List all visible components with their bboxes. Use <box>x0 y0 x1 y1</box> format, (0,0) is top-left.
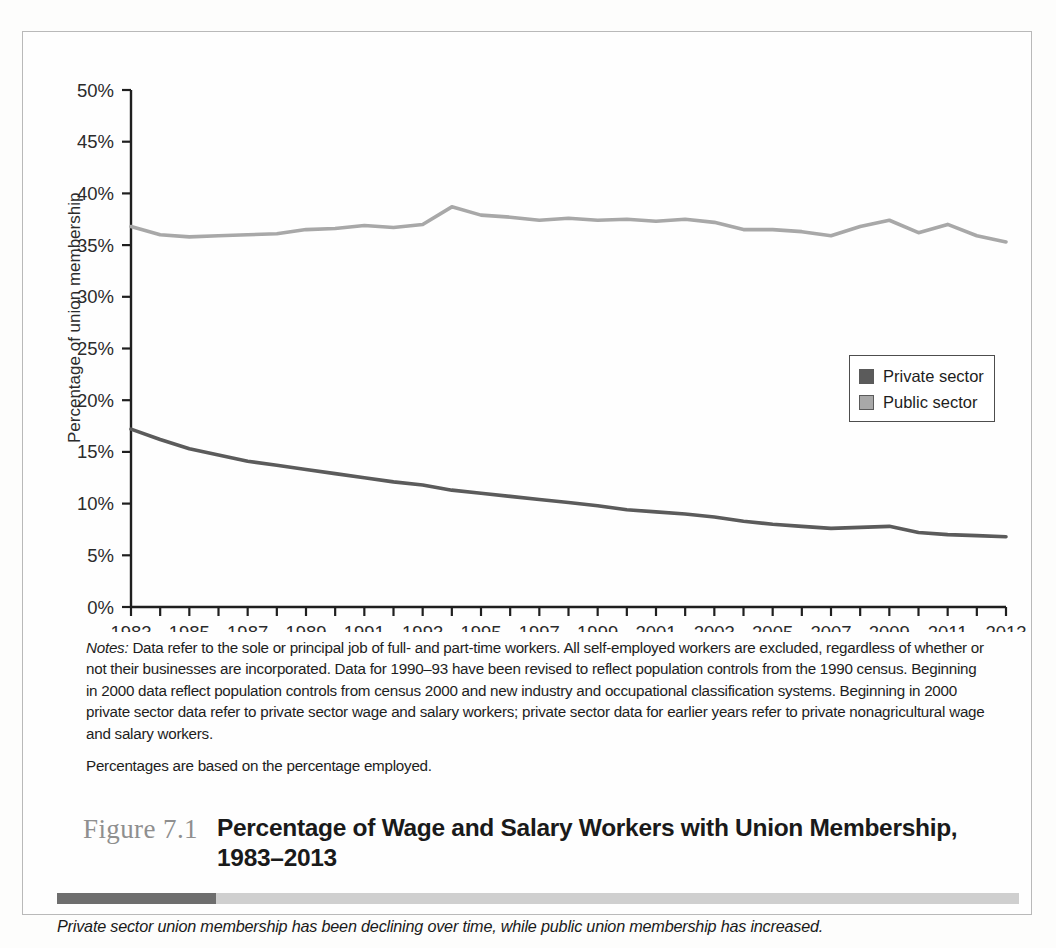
x-axis-tick-label: 2009 <box>869 622 910 632</box>
decorative-rule-bar <box>57 893 1019 904</box>
x-axis-tick-label: 2001 <box>635 622 676 632</box>
series-line-private-sector <box>131 429 1006 537</box>
rule-bar-dark-segment <box>57 893 216 904</box>
y-axis-tick-label: 15% <box>77 441 114 462</box>
notes-body-1: Data refer to the sole or principal job … <box>86 639 984 742</box>
legend-label-private-sector: Private sector <box>883 367 984 386</box>
x-axis-tick-label: 1997 <box>519 622 560 632</box>
y-axis-tick-label: 50% <box>77 80 114 101</box>
y-axis-tick-label: 10% <box>77 493 114 514</box>
y-axis-tick-label: 45% <box>77 131 114 152</box>
notes-paragraph-1: Notes: Data refer to the sole or princip… <box>86 637 991 744</box>
chart-area: Percentage of union membership 0%5%10%15… <box>23 32 1033 632</box>
figure-number: Figure 7.1 <box>83 813 198 845</box>
x-axis-tick-label: 2007 <box>810 622 851 632</box>
y-axis-tick-label: 25% <box>77 338 114 359</box>
figure-frame: Percentage of union membership 0%5%10%15… <box>22 31 1032 915</box>
rule-bar-light-segment <box>216 893 1019 904</box>
y-axis-tick-label: 35% <box>77 235 114 256</box>
line-chart-svg: 0%5%10%15%20%25%30%35%40%45%50%198319851… <box>23 32 1033 632</box>
figure-caption: Private sector union membership has been… <box>57 917 1022 936</box>
y-axis-tick-label: 0% <box>87 597 114 618</box>
notes-lead-label: Notes: <box>86 639 128 656</box>
figure-title-block: Figure 7.1 Percentage of Wage and Salary… <box>83 813 1003 873</box>
x-axis-tick-label: 2003 <box>694 622 735 632</box>
legend-item-public: Public sector <box>859 389 985 415</box>
legend-swatch-private-sector <box>859 369 874 384</box>
x-axis-tick-label: 2011 <box>928 622 968 632</box>
x-axis-tick-label: 1993 <box>402 622 443 632</box>
x-axis-tick-label: 1983 <box>110 622 151 632</box>
legend-item-private: Private sector <box>859 363 985 389</box>
y-axis-tick-label: 5% <box>87 545 114 566</box>
x-axis-tick-label: 1985 <box>169 622 210 632</box>
x-axis-tick-label: 1989 <box>285 622 326 632</box>
x-axis-tick-label: 1995 <box>460 622 501 632</box>
series-line-public-sector <box>131 207 1006 242</box>
x-axis-tick-label: 1991 <box>344 622 385 632</box>
x-axis-tick-label: 2013 <box>985 622 1026 632</box>
figure-title: Percentage of Wage and Salary Workers wi… <box>217 813 1003 873</box>
notes-paragraph-2: Percentages are based on the percentage … <box>86 755 991 776</box>
x-axis-tick-label: 1999 <box>577 622 618 632</box>
figure-notes: Notes: Data refer to the sole or princip… <box>86 637 991 776</box>
legend-label-public-sector: Public sector <box>883 393 977 412</box>
x-axis-tick-label: 1987 <box>227 622 268 632</box>
x-axis-tick-label: 2005 <box>752 622 793 632</box>
y-axis-tick-label: 30% <box>77 286 114 307</box>
figure-container: Percentage of union membership 0%5%10%15… <box>0 0 1056 948</box>
y-axis-tick-label: 20% <box>77 390 114 411</box>
legend-swatch-public-sector <box>859 395 874 410</box>
y-axis-tick-label: 40% <box>77 183 114 204</box>
chart-legend: Private sector Public sector <box>849 355 995 422</box>
